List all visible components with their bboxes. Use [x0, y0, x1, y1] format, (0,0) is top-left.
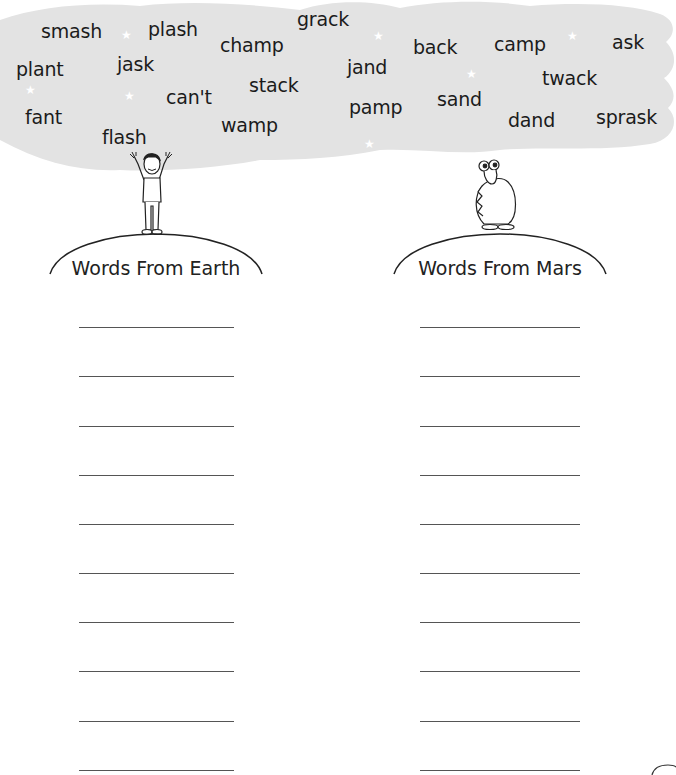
mars-column-heading: Words From Mars: [392, 257, 608, 279]
cloud-word[interactable]: fant: [25, 108, 62, 127]
cloud-word[interactable]: champ: [220, 36, 284, 55]
cloud-word[interactable]: wamp: [221, 116, 278, 135]
star-icon: ★: [466, 68, 477, 80]
mars-answer-line[interactable]: [420, 376, 580, 377]
cloud-word[interactable]: plash: [148, 20, 198, 39]
earth-answer-line[interactable]: [79, 327, 234, 328]
earth-answer-line[interactable]: [79, 426, 234, 427]
mars-answer-line[interactable]: [420, 426, 580, 427]
cloud-word[interactable]: sand: [437, 90, 482, 109]
cloud-word[interactable]: ask: [612, 33, 644, 52]
cloud-word[interactable]: camp: [494, 35, 546, 54]
cloud-word[interactable]: jask: [117, 55, 154, 74]
cloud-word[interactable]: twack: [542, 69, 597, 88]
cloud-word[interactable]: flash: [102, 128, 147, 147]
cloud-word[interactable]: jand: [347, 58, 387, 77]
cloud-word[interactable]: back: [413, 38, 457, 57]
earth-answer-line[interactable]: [79, 573, 234, 574]
page-number-circle-icon: [650, 764, 676, 775]
star-icon: ★: [124, 90, 135, 102]
star-icon: ★: [567, 30, 578, 42]
star-icon: ★: [364, 138, 375, 150]
earth-answer-line[interactable]: [79, 622, 234, 623]
earth-answer-line[interactable]: [79, 770, 234, 771]
mars-answer-line[interactable]: [420, 524, 580, 525]
star-icon: ★: [25, 84, 36, 96]
cloud-word[interactable]: stack: [249, 76, 298, 95]
mars-answer-line[interactable]: [420, 721, 580, 722]
mars-answer-line[interactable]: [420, 770, 580, 771]
cloud-word[interactable]: smash: [41, 22, 102, 41]
cloud-word[interactable]: pamp: [349, 98, 402, 117]
earth-answer-line[interactable]: [79, 721, 234, 722]
earth-answer-line[interactable]: [79, 376, 234, 377]
mars-answer-line[interactable]: [420, 622, 580, 623]
alien-character-icon: [468, 152, 524, 234]
earth-answer-line[interactable]: [79, 475, 234, 476]
cloud-word[interactable]: sprask: [596, 108, 657, 127]
mars-answer-line[interactable]: [420, 671, 580, 672]
star-icon: ★: [121, 29, 132, 41]
cloud-word[interactable]: dand: [508, 111, 555, 130]
cloud-word[interactable]: plant: [16, 60, 63, 79]
cloud-word[interactable]: grack: [297, 10, 349, 29]
boy-character-icon: [126, 150, 176, 236]
earth-answer-line[interactable]: [79, 524, 234, 525]
earth-column-heading: Words From Earth: [48, 257, 264, 279]
mars-answer-line[interactable]: [420, 573, 580, 574]
earth-answer-line[interactable]: [79, 671, 234, 672]
mars-answer-line[interactable]: [420, 475, 580, 476]
cloud-word[interactable]: can't: [166, 88, 212, 107]
mars-answer-line[interactable]: [420, 327, 580, 328]
star-icon: ★: [373, 30, 384, 42]
